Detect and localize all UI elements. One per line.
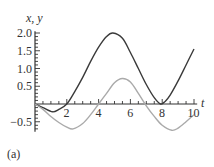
x-tick-label: 10 (188, 107, 200, 119)
x-tick-label: 6 (127, 107, 133, 119)
x-tick-label: 4 (95, 107, 101, 119)
y-axis-label: x, y (26, 12, 43, 24)
x-axis-label: t (201, 97, 204, 109)
x-tick-label: 2 (64, 107, 70, 119)
y-tick-label: −0.5 (10, 116, 32, 128)
x-tick-label: 8 (159, 107, 165, 119)
y-tick-label: 1.5 (17, 45, 32, 57)
line-chart (0, 0, 214, 167)
panel-label: (a) (7, 148, 20, 160)
series-group (35, 33, 194, 130)
y-tick-label: 0.5 (17, 80, 32, 92)
y-tick-label: 1.0 (17, 63, 32, 75)
y-tick-label: 2.0 (17, 27, 32, 39)
series-line-x (35, 33, 194, 112)
